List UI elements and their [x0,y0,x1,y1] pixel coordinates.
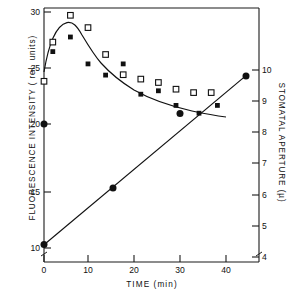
axes-frame [44,8,259,262]
x-axis-ticks [44,255,226,262]
ytick-label-10: 10 [2,243,40,253]
y-axis-title-left: FLUORESCENCE INTENSITY ( rel. units) [28,45,37,221]
left-axis-origin-marker [41,121,48,128]
figure-panel: 30 25 20 15 10 10 9 8 7 6 5 4 0 10 20 30… [0,0,293,299]
axis-break-marks [41,252,262,256]
xtick-label-20: 20 [122,265,146,275]
y2tick-label-4: 4 [262,252,282,262]
x-axis-title: TIME (min) [44,280,260,289]
xtick-label-40: 40 [214,265,238,275]
stomatal-aperture-line [44,76,246,245]
xtick-label-0: 0 [32,265,56,275]
filled-square-markers [50,35,219,116]
right-axis-ticks [252,70,259,257]
plot-area [0,0,293,299]
xtick-label-30: 30 [168,265,192,275]
ytick-label-30: 30 [2,7,40,17]
open-square-markers [41,13,214,96]
xtick-label-10: 10 [76,265,100,275]
y-axis-title-right: STOMATAL APERTURE (µ) [277,55,286,231]
